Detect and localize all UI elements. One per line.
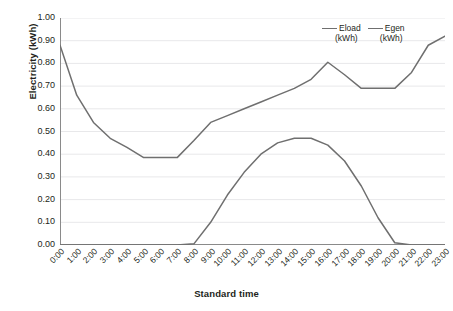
legend-row-egen: Egen <box>368 23 405 33</box>
legend-item-eload: Eload (kWh) <box>322 23 361 43</box>
y-axis-tick-label: 0.90 <box>22 36 55 45</box>
x-axis-title: Standard time <box>0 288 453 299</box>
y-axis-tick-label: 0.50 <box>22 127 55 136</box>
plot-area <box>60 18 445 245</box>
y-axis-tick-label: 1.00 <box>22 13 55 22</box>
y-axis-tick-label: 0.00 <box>22 240 55 249</box>
legend-line-swatch-icon <box>368 28 383 29</box>
y-axis-tick-label: 0.10 <box>22 217 55 226</box>
y-axis-tick-label: 0.20 <box>22 195 55 204</box>
legend-item-egen: Egen (kWh) <box>368 23 405 43</box>
legend-label-egen: Egen <box>385 23 405 33</box>
legend-line-swatch-icon <box>322 28 337 29</box>
gridlines <box>60 18 445 222</box>
y-axis-tick-label: 0.70 <box>22 81 55 90</box>
legend-row-eload: Eload <box>322 23 361 33</box>
series-line-eload <box>60 36 445 157</box>
legend-unit-egen: (kWh) <box>370 33 403 43</box>
legend-label-eload: Eload <box>339 23 361 33</box>
y-axis-tick-label: 0.30 <box>22 172 55 181</box>
y-axis-tick-label: 0.40 <box>22 149 55 158</box>
legend-unit-eload: (kWh) <box>325 33 358 43</box>
plot-svg <box>60 18 445 245</box>
x-axis-tick-labels: 0:001:002:003:004:005:006:007:008:009:00… <box>60 247 452 292</box>
y-axis-tick-label: 0.60 <box>22 104 55 113</box>
chart-legend: Eload (kWh) Egen (kWh) <box>322 23 405 43</box>
line-chart: Electricity (kWh) 1.000.900.800.700.600.… <box>0 0 453 311</box>
y-axis-tick-label: 0.80 <box>22 58 55 67</box>
